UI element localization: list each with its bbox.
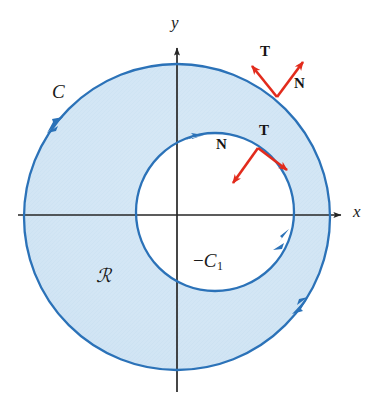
annulus-diagram [0, 0, 377, 399]
x-axis-label: x [353, 203, 361, 220]
inner-normal-label-N: N [216, 137, 227, 152]
outer-curve-label-C: C [52, 82, 65, 101]
outer-tangent-label-T: T [260, 44, 270, 59]
inner-curve-label-minus: − [193, 250, 204, 271]
y-axis-label: y [171, 14, 179, 31]
outer-normal-label-N: N [294, 76, 305, 91]
figure-container: y x C −C1 ℛ T N T N [0, 0, 377, 399]
inner-curve-label-subscript: 1 [217, 259, 223, 273]
region-label-R: ℛ [96, 266, 112, 285]
region-shaded-annulus [0, 0, 377, 399]
inner-tangent-label-T: T [259, 123, 269, 138]
inner-curve-label-base: C [204, 250, 217, 271]
inner-curve-label-negC1: −C1 [193, 251, 223, 272]
